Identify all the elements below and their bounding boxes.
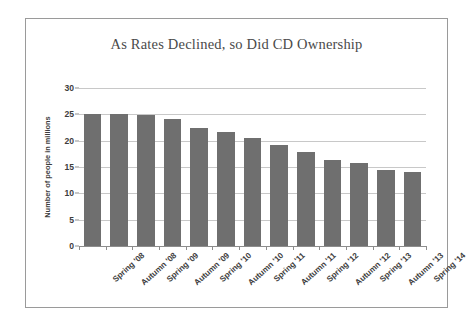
bar [137,115,155,246]
bar-series [79,88,426,246]
x-tick-mark [79,246,80,250]
bar [350,163,368,246]
chart-title: As Rates Declined, so Did CD Ownership [25,36,448,53]
y-tick-label: 15 [64,162,74,172]
bar [377,170,395,246]
bar [190,128,208,246]
y-tick-label: 5 [69,215,74,225]
x-tick-mark [373,246,374,250]
x-tick-mark [186,246,187,250]
bar [297,152,315,246]
x-tick-mark [319,246,320,250]
x-tick-mark [212,246,213,250]
x-tick-mark [266,246,267,250]
x-tick-mark [346,246,347,250]
y-tick-label: 25 [64,109,74,119]
bar [270,145,288,246]
plot-area: 051015202530 Spring '08Autumn '08Spring … [79,88,426,246]
x-tick-mark [106,246,107,250]
x-tick-mark [426,246,427,250]
bar [324,160,342,246]
x-tick-mark [239,246,240,250]
y-tick-label: 20 [64,136,74,146]
x-tick-mark [293,246,294,250]
y-tick-label: 30 [64,83,74,93]
bar [84,114,102,246]
y-tick-label: 10 [64,188,74,198]
bar [217,132,235,246]
bar [404,172,422,246]
x-tick-mark [159,246,160,250]
bar [164,119,182,246]
bar [110,114,128,246]
bar [244,138,262,246]
axis-baseline: 0 [79,246,426,247]
x-tick-mark [132,246,133,250]
y-tick-label: 0 [69,241,74,251]
y-axis-label: Number of people in millions [42,88,54,246]
x-tick-mark [399,246,400,250]
chart-figure: As Rates Declined, so Did CD Ownership N… [0,0,473,324]
